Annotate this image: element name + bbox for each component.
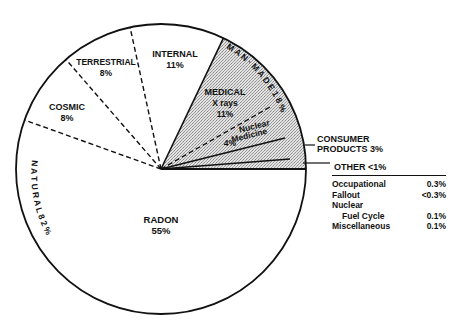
legend-row: Fuel Cycle 0.1%: [332, 211, 446, 222]
label-internal: INTERNAL: [152, 49, 198, 59]
label-xrays: X rays: [212, 98, 238, 108]
legend-name: Fuel Cycle: [332, 211, 385, 222]
boundary-radon-cosmic: [25, 120, 162, 169]
other-title: OTHER <1%: [334, 161, 446, 174]
value-internal: 11%: [166, 60, 184, 70]
legend-row: Miscellaneous 0.1%: [332, 221, 446, 232]
legend-value: <0.3%: [422, 190, 446, 201]
consumer-line2: PRODUCTS 3%: [317, 144, 383, 154]
label-terrestrial: TERRESTRIAL: [76, 57, 136, 67]
consumer-products-callout: CONSUMER PRODUCTS 3%: [317, 134, 383, 154]
legend-row: Occupational 0.3%: [332, 179, 446, 190]
label-cosmic: COSMIC: [49, 102, 86, 112]
legend-name: Nuclear: [332, 200, 363, 211]
label-radon: RADON: [144, 214, 179, 225]
legend-row: Nuclear: [332, 200, 446, 211]
legend-value: 0.1%: [427, 211, 446, 222]
legend-value: 0.1%: [427, 221, 446, 232]
natural-arc-label: N A T U R A L 8 2 %: [29, 160, 54, 237]
value-cosmic: 8%: [60, 113, 73, 123]
value-radon: 55%: [151, 225, 171, 236]
other-breakdown-legend: OTHER <1% Occupational 0.3% Fallout <0.3…: [332, 161, 446, 232]
value-medical: 11%: [217, 109, 234, 119]
consumer-line1: CONSUMER: [317, 134, 383, 144]
legend-name: Miscellaneous: [332, 221, 390, 232]
legend-name: Occupational: [332, 179, 386, 190]
legend-value: 0.3%: [427, 179, 446, 190]
value-nuclear: 4%: [224, 138, 237, 148]
legend-name: Fallout: [332, 190, 360, 201]
value-terrestrial: 8%: [100, 68, 113, 78]
legend-divider: [332, 175, 446, 176]
label-medical: MEDICAL: [205, 87, 246, 97]
legend-row: Fallout <0.3%: [332, 190, 446, 201]
